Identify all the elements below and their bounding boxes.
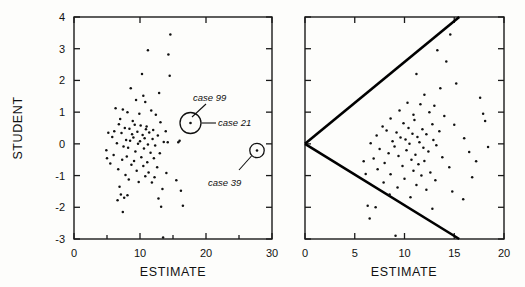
left-data-point	[133, 124, 136, 127]
right-data-point	[409, 196, 412, 199]
case-21-label: case 21	[218, 117, 251, 128]
right-data-point	[445, 60, 448, 63]
left-data-point	[130, 87, 133, 90]
left-data-point	[159, 121, 162, 124]
left-data-point	[145, 128, 148, 131]
left-data-point	[122, 145, 125, 148]
left-data-point	[163, 141, 166, 144]
right-data-point	[475, 160, 478, 163]
left-data-point	[144, 175, 147, 178]
right-data-point	[431, 123, 434, 126]
right-lower-envelope	[305, 144, 459, 239]
left-plot-frame	[74, 17, 272, 239]
left-data-point	[153, 176, 156, 179]
left-y-tick-label-7: 4	[59, 11, 65, 23]
case-39-label: case 39	[208, 177, 242, 188]
right-data-point	[428, 111, 431, 114]
left-data-points	[105, 33, 184, 238]
left-data-point	[126, 111, 128, 114]
right-data-point	[389, 173, 392, 176]
left-data-point	[167, 53, 170, 56]
left-data-point	[146, 161, 149, 164]
right-data-point	[462, 198, 465, 201]
right-data-point	[397, 155, 400, 158]
left-data-point	[151, 181, 154, 184]
left-data-point	[157, 197, 160, 200]
right-data-point	[385, 129, 388, 132]
left-data-point	[149, 151, 152, 154]
right-data-point	[423, 93, 426, 96]
left-data-point	[139, 140, 142, 143]
right-data-point	[429, 171, 432, 174]
right-data-point	[438, 130, 441, 133]
right-x-tick-label-4: 20	[498, 247, 510, 259]
right-data-point	[383, 162, 386, 165]
left-data-point	[125, 139, 128, 142]
right-data-point	[369, 142, 372, 145]
left-data-point	[131, 133, 134, 136]
left-data-point	[128, 127, 131, 130]
left-data-point	[129, 139, 132, 142]
right-data-point	[471, 176, 474, 179]
right-data-point	[416, 136, 419, 139]
left-data-point	[166, 141, 169, 144]
left-data-point	[124, 127, 127, 130]
right-data-point	[415, 73, 418, 76]
left-data-point	[124, 174, 127, 177]
left-data-point	[132, 136, 135, 139]
right-x-tick-label-0: 0	[302, 247, 308, 259]
case-39-leader-line	[239, 156, 252, 170]
left-data-point	[118, 185, 121, 188]
left-y-tick-marks	[74, 17, 272, 239]
left-y-tick-label-4: 1	[59, 106, 65, 118]
right-data-point	[439, 87, 442, 90]
right-data-point	[487, 146, 490, 149]
right-data-point	[441, 156, 444, 159]
right-data-point	[432, 139, 435, 142]
left-data-point	[169, 33, 172, 36]
left-data-point	[143, 137, 146, 140]
right-data-point	[425, 189, 428, 192]
left-data-point	[120, 132, 123, 135]
left-data-point	[126, 194, 128, 197]
right-data-point	[404, 138, 407, 141]
left-y-tick-label-2: -1	[55, 170, 65, 182]
left-data-point	[116, 142, 119, 145]
left-y-tick-label-6: 3	[59, 43, 65, 55]
right-data-point	[387, 152, 390, 155]
left-data-point	[112, 154, 115, 157]
right-data-point	[410, 158, 413, 161]
right-data-point	[412, 113, 415, 116]
right-data-point	[421, 128, 424, 131]
right-data-point	[468, 151, 471, 154]
left-data-point	[122, 211, 125, 214]
left-data-point	[153, 157, 156, 160]
left-data-point	[147, 49, 150, 52]
left-data-point	[154, 144, 157, 147]
left-y-tick-labels: -3-2-101234	[55, 11, 65, 245]
left-data-point	[113, 130, 116, 133]
left-data-point	[144, 101, 147, 104]
left-data-point	[175, 179, 178, 182]
left-data-point	[150, 109, 153, 112]
right-data-point	[417, 163, 420, 166]
left-data-point	[142, 94, 145, 97]
left-data-point	[106, 157, 109, 160]
right-data-point	[433, 105, 436, 108]
right-data-point	[411, 132, 414, 135]
right-data-point	[362, 160, 365, 163]
left-y-tick-label-5: 2	[59, 74, 65, 86]
left-data-point	[127, 146, 130, 149]
left-data-point	[182, 204, 185, 207]
left-data-point	[118, 123, 121, 126]
right-data-point	[391, 140, 394, 143]
right-x-tick-label-3: 15	[448, 247, 460, 259]
right-data-point	[405, 149, 408, 152]
right-data-point	[366, 204, 369, 207]
right-data-point	[393, 145, 396, 148]
right-data-point	[448, 166, 451, 169]
left-data-point	[165, 172, 168, 175]
right-data-point	[453, 124, 456, 127]
right-data-point	[395, 131, 398, 134]
left-data-point	[109, 162, 112, 165]
